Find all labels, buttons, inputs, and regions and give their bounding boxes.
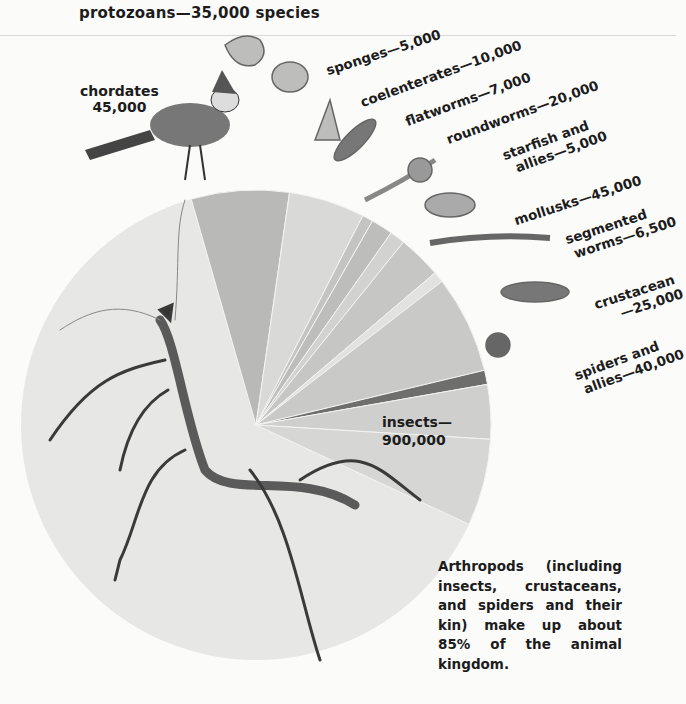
label-insects: insects— 900,000 <box>382 413 452 449</box>
caption: Arthropods (including insects, crustacea… <box>438 557 622 674</box>
label-chordates: chordates 45,000 <box>80 83 159 115</box>
